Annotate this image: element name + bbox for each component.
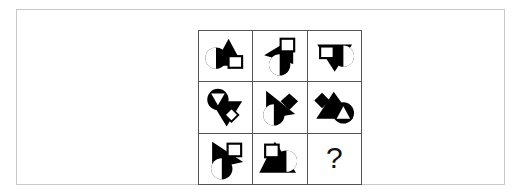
matrix-cell-r1c2[interactable] bbox=[253, 31, 307, 82]
matrix-cell-r1c3[interactable] bbox=[308, 31, 362, 82]
square-shape bbox=[229, 56, 243, 68]
square-shape bbox=[265, 144, 279, 157]
shape-group-r1c3 bbox=[308, 31, 361, 81]
matrix-cell-r3c2[interactable] bbox=[253, 134, 307, 185]
figure-frame: ? bbox=[16, 9, 505, 185]
matrix-cell-r1c1[interactable] bbox=[199, 31, 253, 82]
shape-group-r2c2 bbox=[253, 82, 306, 132]
matrix-cell-r2c3[interactable] bbox=[308, 82, 362, 133]
square-shape bbox=[281, 39, 295, 52]
shape-group-r2c3 bbox=[308, 82, 361, 132]
matrix-cell-r2c2[interactable] bbox=[253, 82, 307, 133]
shape-group-r1c1 bbox=[199, 31, 252, 81]
square-shape bbox=[228, 143, 242, 156]
shape-group-r2c1 bbox=[199, 82, 252, 132]
circle-white-wedge bbox=[269, 54, 280, 75]
matrix-cell-r3c1[interactable] bbox=[199, 134, 253, 185]
square-shape bbox=[320, 46, 334, 58]
matrix-cell-r2c1[interactable] bbox=[199, 82, 253, 133]
question-mark-label: ? bbox=[308, 134, 361, 184]
circle-white-wedge bbox=[264, 105, 275, 126]
shape-group-r3c1 bbox=[199, 134, 252, 184]
circle-white-wedge bbox=[287, 150, 298, 171]
puzzle-page: ? bbox=[0, 0, 519, 192]
matrix-cell-r3c3-answer[interactable]: ? bbox=[308, 134, 362, 185]
shape-group-r1c2 bbox=[253, 31, 306, 81]
matrix-grid: ? bbox=[198, 30, 362, 185]
circle-white-wedge bbox=[343, 46, 354, 67]
shape-group-r3c2 bbox=[253, 134, 306, 184]
circle-white-wedge bbox=[205, 47, 216, 68]
